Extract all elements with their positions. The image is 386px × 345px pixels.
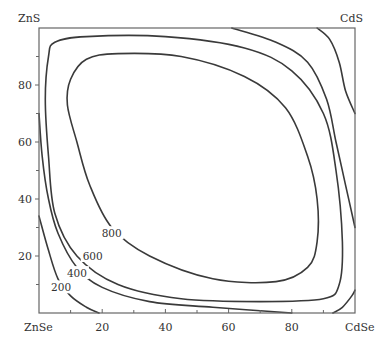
contour-label-200: 200	[51, 281, 71, 293]
y-tick-label: 60	[18, 136, 32, 149]
contour-line-200	[317, 28, 355, 114]
x-tick-label: 40	[158, 321, 172, 334]
corner-label-bottom-left: ZnSe	[24, 321, 53, 334]
contour-label-600: 600	[83, 250, 103, 262]
ternary-contour-chart: 2040608020406080 800600400200 ZnS CdS Zn…	[0, 0, 386, 345]
x-tick-label: 80	[285, 321, 299, 334]
y-tick-label: 40	[18, 193, 32, 206]
x-tick-label: 60	[222, 321, 236, 334]
corner-label-bottom-right: CdSe	[345, 321, 375, 334]
corner-label-top-left: ZnS	[18, 12, 40, 25]
chart-canvas: 2040608020406080 800600400200 ZnS CdS Zn…	[0, 0, 386, 345]
contour-line-200	[39, 216, 99, 313]
contour-labels: 800600400200	[49, 226, 124, 293]
y-tick-label: 80	[18, 79, 32, 92]
contour-label-800: 800	[102, 227, 122, 239]
corner-label-top-right: CdS	[340, 12, 363, 25]
contour-line-400	[232, 28, 355, 228]
y-tick-label: 20	[18, 250, 32, 263]
contour-label-400: 400	[67, 267, 87, 279]
contour-line-800	[67, 53, 318, 282]
x-tick-label: 20	[95, 321, 109, 334]
